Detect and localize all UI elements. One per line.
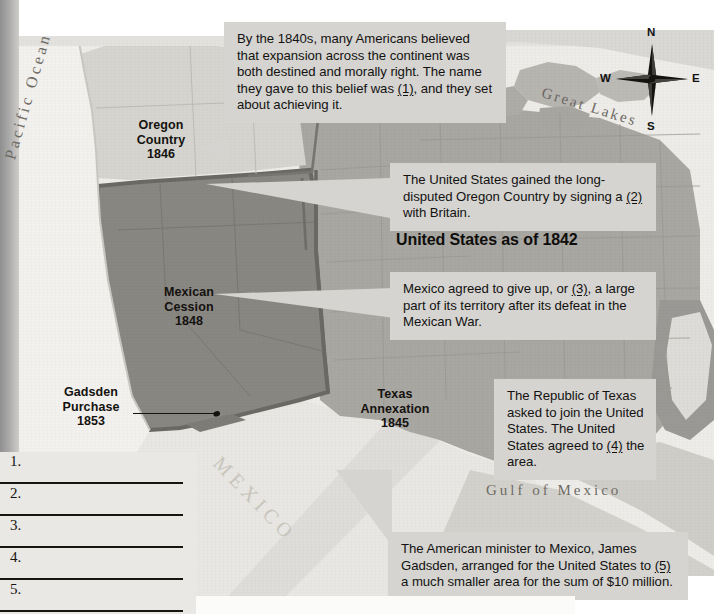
callout-pointer-oregon-treaty	[206, 178, 390, 218]
callout-text-part-b: with Britain.	[403, 205, 471, 220]
gadsden-leader-dot	[215, 411, 220, 416]
compass-star-icon	[604, 28, 700, 132]
answer-row-2[interactable]: 2.	[0, 484, 196, 516]
callout-text-part-a: The American minister to Mexico, James G…	[401, 541, 655, 573]
answer-number-3: 3.	[10, 517, 21, 534]
region-label-gadsden-purchase: Gadsden Purchase 1853	[42, 385, 140, 429]
answer-row-5[interactable]: 5.	[0, 580, 196, 612]
answer-rule-5[interactable]	[0, 610, 183, 612]
answer-number-2: 2.	[10, 485, 21, 502]
callout-blank-3: (3)	[572, 281, 588, 296]
callout-text-part-b: a much smaller area for the sum of $10 m…	[401, 574, 673, 589]
legend-heading-us-1842: United States as of 1842	[396, 231, 578, 249]
callout-oregon-treaty: The United States gained the long-disput…	[390, 163, 656, 231]
callout-pointer-cede-territory	[214, 288, 394, 318]
callout-blank-5: (5)	[655, 558, 671, 573]
callout-gadsden-purchase-note: The American minister to Mexico, James G…	[388, 532, 688, 600]
answer-row-4[interactable]: 4.	[0, 548, 196, 580]
compass-label-east: E	[692, 72, 700, 84]
page-topleft-margin	[19, 0, 239, 36]
answer-number-5: 5.	[10, 581, 21, 598]
worksheet-page: Pacific Ocean Great Lakes Gulf of Mexico…	[0, 0, 714, 614]
callout-blank-4: (4)	[607, 438, 623, 453]
callout-text-part-a: The United States gained the long-disput…	[403, 172, 626, 204]
gadsden-leader-line	[133, 413, 217, 414]
compass-rose: N E S W	[604, 28, 700, 132]
callout-blank-1: (1)	[398, 81, 414, 96]
page-bottom-margin	[195, 596, 575, 614]
answer-row-3[interactable]: 3.	[0, 516, 196, 548]
label-gulf-of-mexico: Gulf of Mexico	[486, 482, 621, 499]
callout-pointer-gadsden	[336, 470, 392, 546]
callout-blank-2: (2)	[626, 189, 642, 204]
callout-cede-territory: Mexico agreed to give up, or (3), a larg…	[390, 272, 656, 340]
callout-manifest-destiny: By the 1840s, many Americans believed th…	[224, 22, 506, 123]
callout-pointer-manifest-destiny	[196, 140, 228, 162]
compass-label-west: W	[600, 72, 611, 84]
callout-text-part-a: Mexico agreed to give up, or	[403, 281, 572, 296]
answer-number-1: 1.	[10, 453, 21, 470]
compass-label-south: S	[647, 120, 655, 132]
answer-number-4: 4.	[10, 549, 21, 566]
region-label-texas-annexation: Texas Annexation 1845	[345, 387, 445, 431]
callout-annex-texas: The Republic of Texas asked to join the …	[494, 379, 656, 480]
answer-row-1[interactable]: 1.	[0, 452, 196, 484]
compass-label-north: N	[647, 26, 655, 38]
answer-panel: 1. 2. 3. 4. 5.	[0, 452, 196, 614]
